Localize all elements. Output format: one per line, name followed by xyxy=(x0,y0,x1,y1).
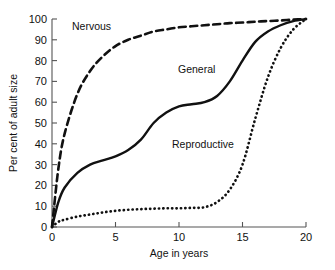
x-axis-ticks: 0 5 10 15 20 xyxy=(49,222,312,243)
y-tick-label-10: 10 xyxy=(35,200,47,212)
y-tick-label-80: 80 xyxy=(35,55,47,67)
x-tick-label-10: 10 xyxy=(173,231,185,243)
y-tick-label-70: 70 xyxy=(35,75,47,87)
y-tick-label-90: 90 xyxy=(35,34,47,46)
chart-series-group xyxy=(52,19,306,227)
x-axis-title: Age in years xyxy=(150,247,208,259)
series-curve-nervous xyxy=(52,19,306,227)
growth-curves-chart: 0 10 20 30 40 50 60 70 80 90 100 0 5 10 … xyxy=(0,0,335,270)
x-tick-label-5: 5 xyxy=(112,231,118,243)
y-tick-label-100: 100 xyxy=(29,13,47,25)
y-tick-label-20: 20 xyxy=(35,179,47,191)
y-tick-label-0: 0 xyxy=(41,221,47,233)
y-axis-title: Per cent of adult size xyxy=(7,74,19,172)
x-tick-label-0: 0 xyxy=(49,231,55,243)
y-tick-label-60: 60 xyxy=(35,96,47,108)
y-tick-label-30: 30 xyxy=(35,159,47,171)
chart-annotations: Nervous General Reproductive xyxy=(72,20,234,150)
y-axis-ticks: 0 10 20 30 40 50 60 70 80 90 100 xyxy=(29,13,57,233)
chart-page: 0 10 20 30 40 50 60 70 80 90 100 0 5 10 … xyxy=(0,0,335,270)
y-tick-label-40: 40 xyxy=(35,138,47,150)
y-tick-label-50: 50 xyxy=(35,117,47,129)
series-label-reproductive: Reproductive xyxy=(172,138,234,150)
series-label-nervous: Nervous xyxy=(72,20,111,32)
chart-axes xyxy=(52,19,306,227)
series-label-general: General xyxy=(178,63,215,75)
x-tick-label-15: 15 xyxy=(236,231,248,243)
series-curve-general xyxy=(52,19,306,227)
x-tick-label-20: 20 xyxy=(300,231,312,243)
series-curve-reproductive xyxy=(52,19,306,227)
